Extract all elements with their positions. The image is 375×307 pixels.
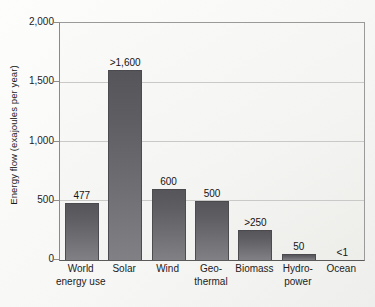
bar — [195, 201, 229, 260]
x-axis-labels: World energy useSolarWindGeo- thermalBio… — [59, 263, 363, 307]
bar — [152, 189, 186, 260]
bar — [108, 70, 142, 260]
y-axis-ticks: 05001,0001,5002,000 — [18, 0, 54, 307]
bar — [65, 203, 99, 260]
bar-value-label: >250 — [215, 217, 295, 228]
y-tick-label: 1,000 — [20, 136, 54, 146]
x-tick-label: Ocean — [316, 263, 367, 276]
bar-value-label: <1 — [302, 247, 375, 258]
gridline — [60, 82, 364, 83]
bar-value-label: 600 — [129, 176, 209, 187]
bar-value-label: 500 — [172, 188, 252, 199]
bar-chart: Energy flow (exajoules per year) 05001,0… — [0, 0, 375, 307]
y-tick-label: 1,500 — [20, 76, 54, 86]
y-tick-label: 0 — [20, 254, 54, 264]
plot-area: 477>1,600600500>25050<1 — [59, 22, 365, 261]
bar-value-label: >1,600 — [85, 57, 165, 68]
gridline — [60, 141, 364, 142]
y-tick-label: 2,000 — [20, 17, 54, 27]
